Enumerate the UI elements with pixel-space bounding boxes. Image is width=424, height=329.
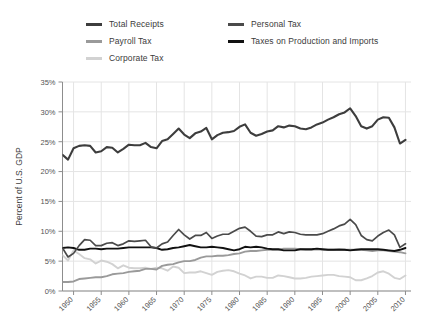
y-axis-tick-label: 0% [45, 287, 56, 296]
x-axis-tick-label: 2000 [333, 295, 351, 313]
y-axis-tick-label: 30% [40, 108, 55, 117]
x-axis-tick-label: 1990 [278, 295, 296, 313]
series-line-taxes-on-production-and-imports [63, 245, 406, 251]
series-line-total-receipts [63, 108, 406, 159]
chart-root: Total ReceiptsPayroll TaxCorporate TaxPe… [0, 0, 424, 329]
y-axis-tick-label: 5% [45, 257, 56, 266]
x-axis-tick-label: 1980 [223, 295, 241, 313]
x-axis-tick-label: 1970 [167, 295, 185, 313]
x-axis-tick-label: 1965 [140, 295, 158, 313]
y-axis-tick-label: 10% [40, 227, 55, 236]
y-axis-title: Percent of U.S. GDP [14, 147, 24, 226]
x-axis-tick-label: 1960 [112, 295, 130, 313]
y-axis-tick-label: 20% [40, 167, 55, 176]
y-axis-tick-label: 35% [40, 78, 55, 87]
line-chart-plot: 0%5%10%15%20%25%30%35%195019551960196519… [0, 0, 424, 329]
y-axis-tick-label: 15% [40, 197, 55, 206]
x-axis-tick-label: 1995 [306, 295, 324, 313]
x-axis-tick-label: 2010 [389, 295, 407, 313]
y-axis-tick-label: 25% [40, 138, 55, 147]
x-axis-tick-label: 1950 [57, 295, 75, 313]
x-axis-tick-label: 1985 [250, 295, 268, 313]
x-axis-tick-label: 1975 [195, 295, 213, 313]
x-axis-tick-label: 1955 [84, 295, 102, 313]
x-axis-tick-label: 2005 [361, 295, 379, 313]
